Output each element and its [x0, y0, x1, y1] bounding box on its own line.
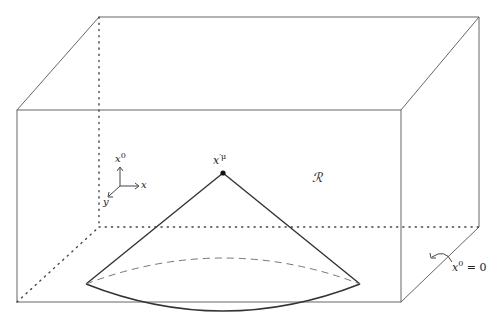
cone-base-front-arc	[86, 284, 360, 311]
diagram-canvas	[0, 0, 501, 333]
box-edge-top-left	[17, 17, 99, 110]
axis-label-x0: x0	[115, 152, 126, 164]
apex-label: x′μ	[213, 153, 226, 166]
surface-label: x0 = 0	[452, 260, 487, 273]
cone-left-edge	[86, 173, 223, 284]
box-front-face	[17, 110, 401, 302]
axis-label-x: x	[141, 180, 147, 190]
cone-base-back-arc	[86, 258, 360, 284]
box-hidden-diagonal-edge	[17, 227, 99, 302]
axis-label-y: y	[103, 197, 109, 207]
region-label: ℛ	[312, 171, 322, 184]
axes-indicator	[108, 167, 139, 197]
box-edge-top-right	[401, 17, 479, 110]
cone-right-edge	[223, 173, 360, 284]
apex-point	[220, 170, 225, 175]
